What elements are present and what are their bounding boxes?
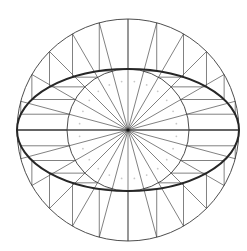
division-mark bbox=[88, 99, 90, 101]
radial-line bbox=[73, 130, 129, 226]
division-mark bbox=[166, 99, 168, 101]
division-mark bbox=[172, 148, 174, 150]
center-point bbox=[126, 128, 129, 131]
ellipse-construction-diagram bbox=[0, 0, 247, 251]
division-mark bbox=[175, 135, 177, 137]
radial-line bbox=[99, 130, 128, 237]
division-mark bbox=[175, 123, 177, 125]
division-mark bbox=[82, 110, 84, 112]
radial-line bbox=[21, 101, 128, 130]
radial-line bbox=[128, 130, 224, 186]
radial-line bbox=[128, 75, 224, 131]
division-mark bbox=[88, 159, 90, 161]
radial-line bbox=[32, 130, 128, 186]
division-mark bbox=[108, 174, 110, 176]
division-mark bbox=[133, 177, 135, 179]
radial-line bbox=[21, 130, 128, 159]
division-mark bbox=[82, 148, 84, 150]
radial-line bbox=[50, 130, 128, 208]
radial-line bbox=[128, 34, 184, 130]
division-mark bbox=[146, 174, 148, 176]
division-mark bbox=[97, 168, 99, 170]
division-mark bbox=[157, 168, 159, 170]
radial-line bbox=[73, 34, 129, 130]
division-mark bbox=[166, 159, 168, 161]
division-mark bbox=[79, 123, 81, 125]
division-mark bbox=[172, 110, 174, 112]
radial-line bbox=[128, 101, 235, 130]
radial-line bbox=[128, 52, 206, 130]
division-mark bbox=[146, 84, 148, 86]
radial-line bbox=[128, 130, 184, 226]
radial-line bbox=[128, 130, 206, 208]
radial-line bbox=[128, 130, 157, 237]
division-mark bbox=[121, 81, 123, 83]
radial-line bbox=[128, 23, 157, 130]
radial-line bbox=[50, 52, 128, 130]
radial-line bbox=[99, 23, 128, 130]
division-mark bbox=[108, 84, 110, 86]
division-mark bbox=[79, 135, 81, 137]
division-mark bbox=[121, 177, 123, 179]
division-mark bbox=[97, 90, 99, 92]
division-mark bbox=[157, 90, 159, 92]
division-mark bbox=[133, 81, 135, 83]
radial-line bbox=[128, 130, 235, 159]
radial-line bbox=[32, 75, 128, 131]
